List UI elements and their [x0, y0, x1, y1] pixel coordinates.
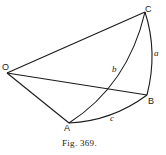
label-arc-a: a: [154, 48, 159, 58]
spherical-triangle-diagram: O C B A a b c Fig. 369.: [0, 0, 166, 155]
label-B: B: [148, 96, 154, 106]
label-O: O: [2, 62, 9, 72]
line-OA: [7, 73, 69, 123]
arc-a-CB: [145, 12, 152, 95]
label-arc-c: c: [110, 113, 114, 123]
label-arc-b: b: [112, 64, 117, 74]
figure-caption: Fig. 369.: [62, 138, 97, 148]
label-C: C: [145, 4, 152, 14]
line-OC: [7, 12, 145, 73]
label-A: A: [64, 123, 70, 133]
arc-c-AB: [69, 95, 147, 123]
line-OB: [7, 73, 147, 95]
